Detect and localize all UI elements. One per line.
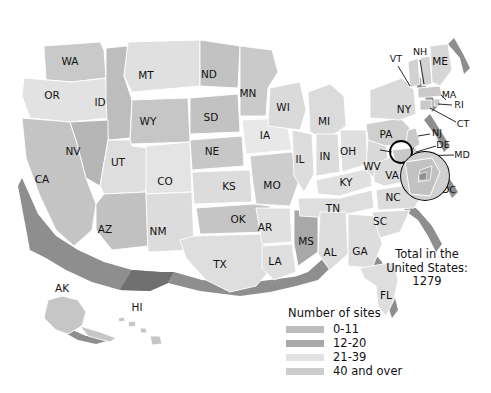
state-label-IN: IN bbox=[320, 150, 331, 162]
state-label-OH: OH bbox=[340, 145, 356, 157]
state-label-NY: NY bbox=[397, 103, 412, 115]
state-label-WA: WA bbox=[62, 55, 80, 67]
state-label-MN: MN bbox=[240, 87, 257, 99]
state-label-GA: GA bbox=[352, 245, 368, 257]
state-label-DE: DE bbox=[436, 139, 449, 150]
state-label-SD: SD bbox=[204, 111, 219, 123]
state-label-MD: MD bbox=[454, 149, 470, 160]
state-label-TX: TX bbox=[212, 258, 227, 270]
state-MT bbox=[124, 40, 200, 92]
legend-rows: 0-1112-2021-3940 and over bbox=[286, 323, 446, 378]
state-label-HI: HI bbox=[132, 301, 143, 313]
state-label-MT: MT bbox=[138, 69, 154, 81]
state-RI bbox=[434, 99, 440, 106]
state-label-NV: NV bbox=[65, 145, 81, 157]
total-line-2: United States: bbox=[374, 262, 480, 276]
state-label-TN: TN bbox=[325, 202, 340, 214]
state-ND bbox=[200, 40, 240, 88]
state-MA bbox=[418, 86, 442, 98]
legend-label: 21-39 bbox=[333, 351, 366, 364]
state-label-IL: IL bbox=[296, 153, 305, 165]
state-label-IA: IA bbox=[260, 129, 271, 141]
state-label-AR: AR bbox=[258, 221, 272, 233]
legend-swatch bbox=[286, 340, 324, 347]
state-label-MI: MI bbox=[318, 115, 330, 127]
legend-row: 0-11 bbox=[286, 323, 446, 336]
legend-label: 12-20 bbox=[333, 337, 366, 350]
state-label-CA: CA bbox=[35, 173, 50, 185]
legend-title: Number of sites bbox=[288, 306, 446, 320]
state-label-NJ: NJ bbox=[432, 127, 442, 138]
state-label-ID: ID bbox=[94, 96, 105, 108]
state-label-AL: AL bbox=[323, 246, 336, 258]
total-annotation: Total in the United States: 1279 bbox=[374, 248, 480, 289]
state-label-FL: FL bbox=[380, 289, 392, 301]
legend-label: 0-11 bbox=[333, 323, 359, 336]
state-label-ME: ME bbox=[432, 55, 448, 67]
total-line-3: 1279 bbox=[374, 275, 480, 289]
state-label-KS: KS bbox=[222, 180, 236, 192]
state-label-VT: VT bbox=[390, 53, 402, 64]
magnifier-dc-contents bbox=[401, 152, 449, 200]
state-label-WI: WI bbox=[276, 101, 289, 113]
state-label-WY: WY bbox=[140, 115, 157, 127]
state-label-WV: WV bbox=[363, 160, 381, 172]
state-label-OK: OK bbox=[230, 213, 246, 225]
legend-swatch bbox=[286, 354, 324, 361]
state-label-RI: RI bbox=[454, 99, 463, 110]
legend-row: 21-39 bbox=[286, 351, 446, 364]
state-label-MS: MS bbox=[298, 235, 314, 247]
legend-label: 40 and over bbox=[333, 365, 402, 378]
state-label-KY: KY bbox=[340, 176, 354, 188]
us-map-figure: WAORCAIDNVMTWYUTCOAZNMNDSDNEKSOKTXMNIAMO… bbox=[0, 0, 491, 393]
legend-swatch bbox=[286, 326, 324, 333]
state-label-OR: OR bbox=[44, 89, 60, 101]
state-NJ bbox=[406, 128, 420, 150]
legend-row: 12-20 bbox=[286, 337, 446, 350]
state-HI bbox=[118, 317, 162, 345]
state-label-UT: UT bbox=[111, 156, 126, 168]
state-label-AK: AK bbox=[55, 282, 70, 294]
state-label-CO: CO bbox=[157, 175, 173, 187]
state-label-NE: NE bbox=[205, 145, 220, 157]
state-label-AZ: AZ bbox=[98, 223, 112, 235]
state-label-MO: MO bbox=[263, 179, 280, 191]
state-label-CT: CT bbox=[457, 118, 470, 129]
legend-swatch bbox=[286, 368, 324, 375]
state-label-VA: VA bbox=[385, 169, 400, 181]
state-label-NM: NM bbox=[150, 225, 167, 237]
legend-row: 40 and over bbox=[286, 365, 446, 378]
map-legend: Number of sites 0-1112-2021-3940 and ove… bbox=[286, 306, 446, 379]
state-label-PA: PA bbox=[380, 128, 394, 140]
state-label-LA: LA bbox=[268, 255, 282, 267]
state-label-NH: NH bbox=[413, 46, 427, 57]
state-label-ND: ND bbox=[201, 68, 217, 80]
state-AZ bbox=[96, 192, 148, 250]
total-line-1: Total in the bbox=[374, 248, 480, 262]
state-VT bbox=[408, 58, 420, 88]
state-label-SC: SC bbox=[373, 215, 387, 227]
state-label-NC: NC bbox=[385, 191, 400, 203]
